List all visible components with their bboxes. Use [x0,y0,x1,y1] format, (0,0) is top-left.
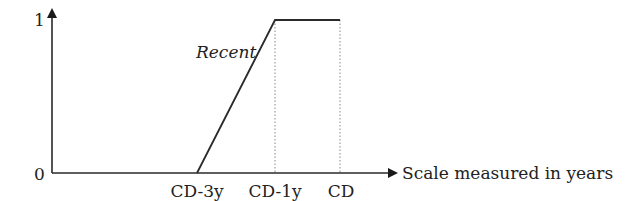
x-axis: Scale measured in years CD-3y CD-1y CD [52,163,613,201]
curve-label-recent: Recent [195,42,256,62]
membership-function-diagram: 1 0 Scale measured in years CD-3y CD-1y … [0,0,636,201]
x-tick-cd: CD [328,181,355,201]
x-tick-cd-1y: CD-1y [248,181,302,201]
y-tick-0: 0 [34,164,45,184]
y-tick-1: 1 [34,10,45,30]
x-tick-cd-3y: CD-3y [170,181,224,201]
y-axis: 1 0 [34,10,52,184]
x-axis-label: Scale measured in years [402,163,613,183]
